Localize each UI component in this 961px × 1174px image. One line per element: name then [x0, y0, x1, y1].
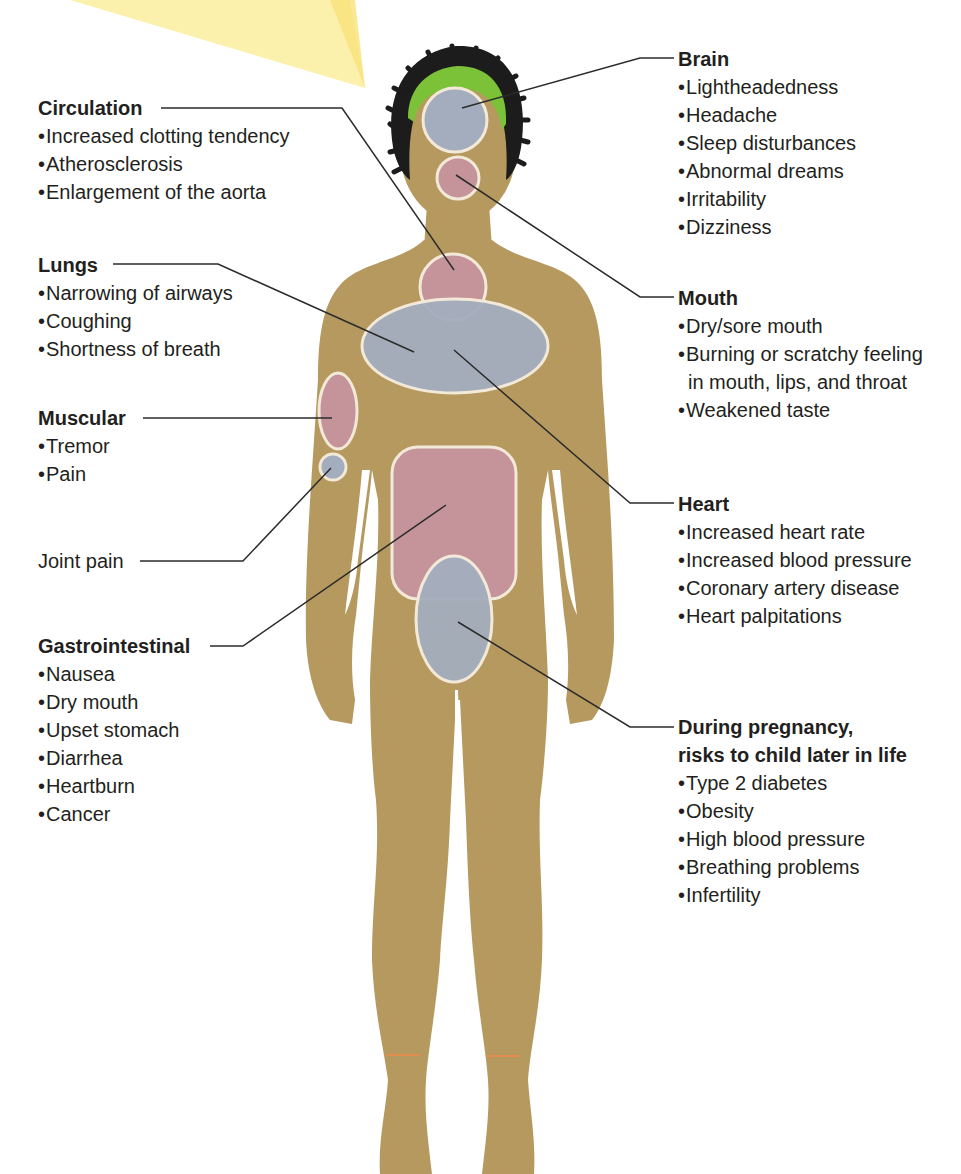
list-item: •Breathing problems — [678, 853, 907, 881]
list-item: •High blood pressure — [678, 825, 907, 853]
list-item: •Increased blood pressure — [678, 546, 912, 574]
pregnancy-label: During pregnancy, risks to child later i… — [678, 713, 907, 909]
list-item: •Increased clotting tendency — [38, 122, 290, 150]
brain-label: Brain •Lightheadedness •Headache •Sleep … — [678, 45, 856, 241]
heart-title: Heart — [678, 490, 912, 518]
muscular-title: Muscular — [38, 404, 126, 432]
list-item-continuation: in mouth, lips, and throat — [678, 368, 923, 396]
list-item: •Cancer — [38, 800, 190, 828]
mouth-region — [437, 157, 479, 199]
list-item: •Pain — [38, 460, 126, 488]
lungs-label: Lungs •Narrowing of airways •Coughing •S… — [38, 251, 233, 363]
leg-gap — [455, 690, 461, 960]
circulation-label: Circulation •Increased clotting tendency… — [38, 94, 290, 206]
lungs-title: Lungs — [38, 251, 233, 279]
list-item: •Coronary artery disease — [678, 574, 912, 602]
pregnancy-title-line1: During pregnancy, — [678, 713, 907, 741]
lungs-region — [362, 299, 548, 393]
list-item: •Heart palpitations — [678, 602, 912, 630]
list-item: •Irritability — [678, 185, 856, 213]
list-item: •Obesity — [678, 797, 907, 825]
list-item: •Heartburn — [38, 772, 190, 800]
muscular-region — [319, 373, 357, 449]
brain-title: Brain — [678, 45, 856, 73]
list-item: •Enlargement of the aorta — [38, 178, 290, 206]
list-item: •Lightheadedness — [678, 73, 856, 101]
list-item: •Weakened taste — [678, 396, 923, 424]
list-item: •Narrowing of airways — [38, 279, 233, 307]
list-item: •Burning or scratchy feeling — [678, 340, 923, 368]
gastrointestinal-title: Gastrointestinal — [38, 632, 190, 660]
list-item: •Abnormal dreams — [678, 157, 856, 185]
pregnancy-region — [416, 556, 492, 682]
mouth-label: Mouth •Dry/sore mouth •Burning or scratc… — [678, 284, 923, 424]
muscular-label: Muscular •Tremor •Pain — [38, 404, 126, 488]
list-item: •Infertility — [678, 881, 907, 909]
body-effects-diagram: Circulation •Increased clotting tendency… — [0, 0, 961, 1174]
joint-leader — [140, 468, 331, 561]
list-item: •Increased heart rate — [678, 518, 912, 546]
mouth-title: Mouth — [678, 284, 923, 312]
list-item: •Tremor — [38, 432, 126, 460]
brain-region — [423, 88, 487, 152]
list-item: •Sleep disturbances — [678, 129, 856, 157]
list-item: •Diarrhea — [38, 744, 190, 772]
list-item: •Atherosclerosis — [38, 150, 290, 178]
list-item: •Upset stomach — [38, 716, 190, 744]
light-ray — [70, 0, 365, 88]
heart-label: Heart •Increased heart rate •Increased b… — [678, 490, 912, 630]
list-item: •Type 2 diabetes — [678, 769, 907, 797]
joint-pain-title: Joint pain — [38, 547, 124, 575]
list-item: •Coughing — [38, 307, 233, 335]
list-item: •Nausea — [38, 660, 190, 688]
list-item: •Dry mouth — [38, 688, 190, 716]
circulation-title: Circulation — [38, 94, 290, 122]
list-item: •Headache — [678, 101, 856, 129]
list-item: •Dizziness — [678, 213, 856, 241]
pregnancy-title-line2: risks to child later in life — [678, 741, 907, 769]
gastrointestinal-label: Gastrointestinal •Nausea •Dry mouth •Ups… — [38, 632, 190, 828]
joint-pain-label: Joint pain — [38, 547, 124, 575]
list-item: •Dry/sore mouth — [678, 312, 923, 340]
list-item: •Shortness of breath — [38, 335, 233, 363]
